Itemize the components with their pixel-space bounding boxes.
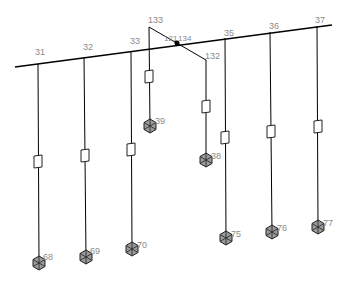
valve-box-icon[interactable] (81, 149, 89, 162)
drop-36[interactable] (266, 32, 278, 239)
node-label-37: 37 (315, 16, 325, 25)
node-label-35: 35 (224, 29, 234, 38)
valve-box-icon[interactable] (267, 125, 275, 138)
valve-box-icon[interactable] (221, 131, 229, 144)
main-pipe[interactable] (15, 25, 332, 67)
node-label-75: 75 (231, 230, 241, 239)
drop-33[interactable] (126, 51, 138, 256)
valve-box-icon[interactable] (314, 120, 322, 133)
valve-box-icon[interactable] (145, 70, 153, 83)
valve-box-icon[interactable] (34, 155, 42, 168)
node-label-39: 39 (155, 117, 165, 126)
valve-box-icon[interactable] (202, 100, 210, 113)
drop-32[interactable] (80, 57, 92, 264)
node-label-132: 132 (205, 52, 220, 61)
node-label-77: 77 (323, 219, 333, 228)
node-label-134: 134 (178, 35, 191, 43)
node-label-76: 76 (277, 224, 287, 233)
valve-box-icon[interactable] (127, 143, 135, 156)
node-label-121: 121 (164, 35, 177, 43)
node-label-69: 69 (90, 247, 100, 256)
drop-31[interactable] (33, 64, 45, 270)
node-label-133: 133 (148, 16, 163, 25)
node-label-33: 33 (130, 37, 140, 46)
node-label-36: 36 (269, 22, 279, 31)
node-label-68: 68 (43, 253, 53, 262)
node-label-31: 31 (35, 48, 45, 57)
node-label-38: 38 (211, 152, 221, 161)
node-label-70: 70 (137, 241, 147, 250)
drop-35[interactable] (220, 38, 232, 245)
drop-37[interactable] (312, 26, 324, 234)
node-label-32: 32 (83, 43, 93, 52)
